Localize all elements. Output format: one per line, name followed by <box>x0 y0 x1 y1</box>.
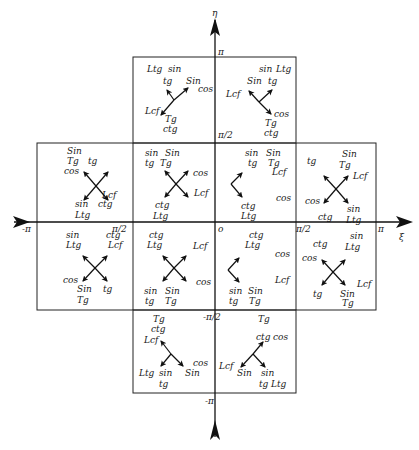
svg-text:tg: tg <box>229 296 239 306</box>
svg-text:Lcf: Lcf <box>193 188 210 198</box>
svg-text:tg: tg <box>159 379 169 389</box>
tick-v-half: π/2 <box>217 130 233 140</box>
svg-text:ctg: ctg <box>313 239 328 249</box>
svg-text:Tg: Tg <box>77 295 89 305</box>
svg-text:ctg: ctg <box>151 324 166 334</box>
svg-text:Ltg: Ltg <box>240 211 257 221</box>
svg-text:Lcf: Lcf <box>274 275 291 285</box>
svg-text:ctg: ctg <box>155 200 170 210</box>
svg-text:tg: tg <box>259 379 269 389</box>
svg-text:sin: sin <box>144 286 157 296</box>
svg-text:sin: sin <box>261 368 274 378</box>
svg-text:sin: sin <box>350 231 363 241</box>
cell-lower-far-left: sin ctg Ltg Lcf cos Sin tg Tg <box>63 230 124 305</box>
svg-text:cos: cos <box>302 253 317 263</box>
svg-text:Lcf: Lcf <box>225 89 242 99</box>
svg-text:tg: tg <box>248 158 258 168</box>
svg-text:cos: cos <box>273 332 288 342</box>
svg-text:Tg: Tg <box>165 296 177 306</box>
svg-text:Ltg: Ltg <box>146 64 163 74</box>
grid-frame <box>37 57 376 393</box>
svg-text:Tg: Tg <box>258 314 270 324</box>
svg-text:Tg: Tg <box>342 298 354 308</box>
svg-text:tg: tg <box>88 156 98 166</box>
svg-text:tg: tg <box>313 289 323 299</box>
svg-text:ctg: ctg <box>264 128 279 138</box>
svg-text:Lcf: Lcf <box>271 167 288 177</box>
svg-text:Lcf: Lcf <box>107 240 124 250</box>
svg-text:Lcf: Lcf <box>143 335 160 345</box>
cell-upper-far-left: Sin Tg tg cos Lcf sin ctg Ltg <box>64 146 118 220</box>
svg-text:ctg: ctg <box>241 201 256 211</box>
svg-text:Tg: Tg <box>153 314 165 324</box>
svg-text:Ltg: Ltg <box>270 379 287 389</box>
svg-text:sin: sin <box>245 148 258 158</box>
svg-text:Sin: Sin <box>237 368 252 378</box>
svg-text:sin: sin <box>66 230 79 240</box>
svg-text:Lcf: Lcf <box>356 279 373 289</box>
svg-text:sin: sin <box>259 64 272 74</box>
svg-text:Ltg: Ltg <box>244 240 261 250</box>
svg-text:Sin: Sin <box>248 286 263 296</box>
svg-text:Tg: Tg <box>265 118 277 128</box>
svg-text:ctg: ctg <box>163 124 178 134</box>
xi-label: ξ <box>399 232 405 242</box>
cell-bottom-right: Tg ctg cos Lcf Sin sin tg Ltg <box>218 314 288 389</box>
cell-lower-mid-right: ctg Ltg cos Lcf sin Sin tg Tg <box>228 230 291 306</box>
svg-text:Sin: Sin <box>77 284 92 294</box>
svg-text:cos: cos <box>196 277 211 287</box>
svg-text:Tg: Tg <box>67 156 79 166</box>
neg-half-label: π/2 <box>111 224 127 234</box>
svg-text:Lcf: Lcf <box>144 106 161 116</box>
svg-text:ctg: ctg <box>249 230 264 240</box>
svg-text:Sin: Sin <box>165 286 180 296</box>
svg-text:Ltg: Ltg <box>65 240 82 250</box>
svg-text:Sin: Sin <box>185 368 200 378</box>
svg-text:cos: cos <box>193 168 208 178</box>
svg-text:sin: sin <box>347 204 360 214</box>
svg-text:Sin: Sin <box>67 146 82 156</box>
svg-text:Sin: Sin <box>247 76 262 86</box>
tick-h-pi: π <box>377 224 385 234</box>
svg-text:Sin: Sin <box>266 148 281 158</box>
svg-text:Lcf: Lcf <box>352 171 369 181</box>
svg-text:Sin: Sin <box>342 149 357 159</box>
svg-text:tg: tg <box>268 76 278 86</box>
svg-text:Tg: Tg <box>160 158 172 168</box>
trig-sign-diagram: η ξ π π/2 -π/2 -π -π π π/2 o Ltg sin tg … <box>0 0 419 450</box>
svg-text:tg: tg <box>145 296 155 306</box>
tick-v-neg-half: -π/2 <box>203 312 221 322</box>
svg-text:tg: tg <box>163 76 173 86</box>
cell-upper-far-right: tg Sin Tg Lcf cos ctg sin Ltg <box>305 149 369 225</box>
svg-text:ctg: ctg <box>256 332 271 342</box>
eta-label: η <box>212 8 218 18</box>
svg-text:Lcf: Lcf <box>218 361 235 371</box>
svg-text:Ltg: Ltg <box>146 240 163 250</box>
svg-text:sin: sin <box>145 148 158 158</box>
cell-lower-mid-left: ctg Ltg Lcf cos sin Sin tg Tg <box>144 230 211 306</box>
svg-text:Sin: Sin <box>165 148 180 158</box>
tick-h-neg-pi: -π <box>22 224 32 234</box>
svg-text:sin: sin <box>168 64 181 74</box>
svg-text:tg: tg <box>307 156 317 166</box>
cell-upper-mid-left: sin Sin tg Tg cos Lcf ctg Ltg <box>145 148 210 221</box>
cell-lower-far-right: ctg sin Ltg cos Lcf tg Sin Tg <box>302 231 373 308</box>
svg-text:tg: tg <box>103 284 113 294</box>
svg-text:cos: cos <box>275 249 290 259</box>
svg-text:Ltg: Ltg <box>344 242 361 252</box>
svg-text:cos: cos <box>193 358 208 368</box>
svg-text:Ltg: Ltg <box>138 368 155 378</box>
svg-text:ctg: ctg <box>98 199 113 209</box>
cell-bottom-left: Tg ctg Lcf cos Ltg sin Sin tg <box>138 314 208 389</box>
tick-v-neg-pi: -π <box>205 396 215 406</box>
svg-text:Ltg: Ltg <box>74 210 91 220</box>
svg-text:sin: sin <box>229 286 242 296</box>
svg-text:ctg: ctg <box>149 230 164 240</box>
svg-text:Ltg: Ltg <box>152 211 169 221</box>
svg-text:Ltg: Ltg <box>275 64 292 74</box>
svg-text:cos: cos <box>64 166 79 176</box>
cell-top-left: Ltg sin tg Sin cos Lcf Tg ctg <box>144 64 213 134</box>
origin-label: o <box>218 224 224 234</box>
cell-top-right: sin Ltg Sin tg Lcf cos Tg ctg <box>225 64 292 138</box>
cell-upper-mid-right: sin Sin tg Tg Lcf cos ctg Ltg <box>231 148 291 221</box>
